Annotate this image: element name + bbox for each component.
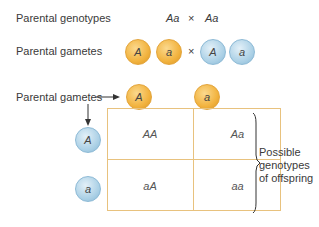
row-gamete-a: a xyxy=(75,176,101,202)
possible-genotypes-line-3: of offspring xyxy=(259,172,313,185)
gamete-orange-A: A xyxy=(125,39,151,65)
gamete-blue-A: A xyxy=(200,39,226,65)
column-gamete-a: a xyxy=(194,84,220,110)
parental-gametes-label: Parental gametes xyxy=(16,45,102,57)
parental-gametes-grid-label: Parental gametes xyxy=(16,91,102,103)
parental-genotypes-label: Parental genotypes xyxy=(16,12,111,24)
cross-symbol: × xyxy=(188,12,194,24)
column-gamete-A: A xyxy=(126,84,152,110)
arrow-right-icon xyxy=(96,92,120,102)
cell-AA: AA xyxy=(107,108,193,159)
gamete-blue-a: a xyxy=(229,39,255,65)
genotype-right: Aa xyxy=(205,12,218,24)
gamete-orange-a: a xyxy=(156,39,182,65)
possible-genotypes-line-2: genotypes xyxy=(259,159,313,172)
possible-genotypes-line-1: Possible xyxy=(259,146,313,159)
cross-symbol-gametes: × xyxy=(188,45,194,57)
cell-aA: aA xyxy=(107,160,193,211)
genotype-left: Aa xyxy=(166,12,179,24)
arrow-down-icon xyxy=(83,104,93,126)
row-gamete-A: A xyxy=(75,127,101,153)
possible-genotypes-label: Possible genotypes of offspring xyxy=(259,146,313,185)
